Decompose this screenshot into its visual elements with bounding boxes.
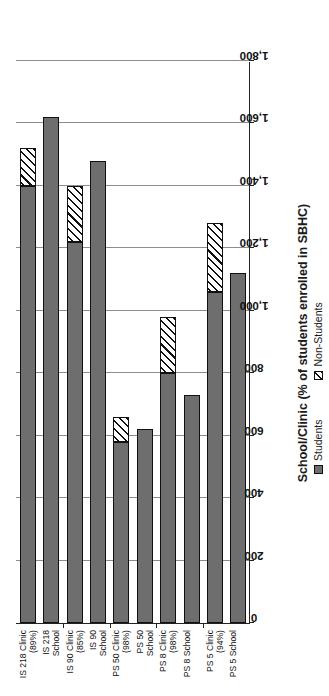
category-label-line2: (85%) xyxy=(75,630,85,673)
category-label-line1: PS 8 Clinic xyxy=(158,630,168,672)
bar-group xyxy=(207,61,223,623)
category-label: PS 5 School xyxy=(228,630,238,677)
category-label-line1: IS 218 Clinic xyxy=(18,630,28,678)
category-label-line1: IS 218 xyxy=(41,630,51,656)
category-axis-title: School/Clinic (% of students enrolled in… xyxy=(296,204,310,483)
bar-segment-students xyxy=(184,395,200,623)
bar-segment-students xyxy=(207,292,223,623)
value-axis-label: 1,200 xyxy=(240,237,269,249)
category-label-line1: PS 5 School xyxy=(228,630,238,677)
category-label-line1: PS 50 xyxy=(135,630,145,656)
category-label: PS 5 Clinic(94%) xyxy=(205,630,225,672)
category-axis-tick xyxy=(63,623,64,628)
category-label-line1: PS 5 Clinic xyxy=(205,630,215,672)
value-axis-label: 1,600 xyxy=(240,112,269,124)
category-label: IS 90School xyxy=(88,630,108,656)
legend-label: Students xyxy=(312,420,324,461)
category-label-line2: School xyxy=(145,630,155,656)
bar-group xyxy=(160,61,176,623)
category-label-line1: IS 90 Clinic xyxy=(65,630,75,673)
bar-segment-non-students xyxy=(160,317,176,373)
bar-segment-students xyxy=(230,273,246,623)
bar-group xyxy=(67,61,83,623)
category-axis-tick xyxy=(156,623,157,628)
category-label-line2: (94%) xyxy=(215,630,225,672)
bar-segment-students xyxy=(67,242,83,623)
value-axis-label: 1,400 xyxy=(240,175,269,187)
category-label-line1: PS 8 School xyxy=(182,630,192,677)
category-label: PS 8 School xyxy=(182,630,192,677)
legend-swatch-icon xyxy=(314,371,323,380)
bar-segment-students xyxy=(160,373,176,623)
category-label-line2: (89%) xyxy=(28,630,38,678)
bar-segment-non-students xyxy=(113,417,129,442)
category-label: PS 8 Clinic(98%) xyxy=(158,630,178,672)
bar-group xyxy=(20,61,36,623)
value-axis-label: 600 xyxy=(244,425,263,437)
bar-segment-non-students xyxy=(207,223,223,292)
category-label: PS 50School xyxy=(135,630,155,656)
bar-group xyxy=(137,61,153,623)
value-axis-label: 800 xyxy=(244,362,263,374)
category-axis-tick xyxy=(110,623,111,628)
chart-area: 02004006008001,0001,2001,4001,6001,800 N… xyxy=(0,0,329,696)
category-label-line1: PS 50 Clinic xyxy=(111,630,121,677)
bar-group xyxy=(43,61,59,623)
chart-legend: StudentsNon-Students xyxy=(312,302,324,474)
category-label-line1: IS 90 xyxy=(88,630,98,656)
category-label: PS 50 Clinic(98%) xyxy=(111,630,131,677)
value-axis-label: 1,000 xyxy=(240,300,269,312)
value-axis-label: 200 xyxy=(244,550,263,562)
category-axis-tick xyxy=(203,623,204,628)
rotated-chart-frame: 02004006008001,0001,2001,4001,6001,800 N… xyxy=(0,0,329,696)
bar-group xyxy=(184,61,200,623)
bar-group xyxy=(230,61,246,623)
category-label-line2: (98%) xyxy=(121,630,131,677)
legend-item: Students xyxy=(312,420,324,474)
value-axis-label: 1,800 xyxy=(240,50,269,62)
bar-segment-non-students xyxy=(67,186,83,242)
category-label: IS 218 Clinic(89%) xyxy=(18,630,38,678)
legend-label: Non-Students xyxy=(312,302,324,366)
category-label: IS 218School xyxy=(41,630,61,656)
legend-item: Non-Students xyxy=(312,302,324,379)
value-axis-label: 0 xyxy=(251,612,257,624)
bar-segment-students xyxy=(43,117,59,623)
bar-segment-students xyxy=(20,186,36,623)
bar-group xyxy=(90,61,106,623)
plot-area xyxy=(16,62,250,624)
bar-segment-non-students xyxy=(20,148,36,185)
category-label: IS 90 Clinic(85%) xyxy=(65,630,85,673)
bar-segment-students xyxy=(90,161,106,623)
category-label-line2: School xyxy=(98,630,108,656)
category-label-line2: (98%) xyxy=(168,630,178,672)
legend-swatch-icon xyxy=(314,465,323,474)
value-axis-label: 400 xyxy=(244,487,263,499)
bar-segment-students xyxy=(137,429,153,623)
category-label-line2: School xyxy=(51,630,61,656)
bar-group xyxy=(113,61,129,623)
bar-segment-students xyxy=(113,442,129,623)
